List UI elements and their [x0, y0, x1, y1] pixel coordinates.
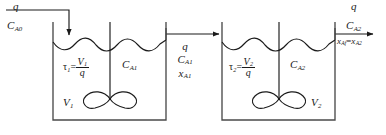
- tank-1-concentration-label: CA1: [122, 59, 137, 71]
- cstr-series-diagram: q CA0 τ1=V1q CA1 V1 q CA1 xA1 τ2=V2q CA2…: [0, 0, 386, 135]
- feed-flow-label: q: [13, 1, 19, 12]
- intermediate-concentration-subscript: A1: [185, 58, 193, 65]
- tank-1-tau-fraction: V1q: [76, 57, 89, 79]
- product-concentration-label: CA2: [346, 20, 361, 32]
- intermediate-conversion-label: xA1: [168, 67, 202, 81]
- feed-concentration-label: CA0: [7, 20, 22, 32]
- product-conversion-right-subscript: A2: [356, 40, 362, 46]
- product-concentration-subscript: A2: [354, 25, 362, 32]
- product-conversion-right-symbol: x: [351, 36, 355, 46]
- tank-1-tau-numerator-symbol: V: [78, 56, 84, 67]
- feed-concentration-symbol: C: [7, 19, 14, 31]
- intermediate-flow-label: q: [168, 40, 202, 53]
- tank-1-tau-numerator-subscript: 1: [84, 60, 87, 67]
- tank-1-concentration-subscript: A1: [130, 64, 138, 71]
- intermediate-concentration-symbol: C: [177, 53, 184, 65]
- tank-2-tau-numerator-symbol: V: [244, 56, 250, 67]
- tank-1-volume-symbol: V: [63, 96, 70, 108]
- tank-1-residence-time-label: τ1=V1q: [63, 57, 89, 79]
- intermediate-pipe: [166, 28, 219, 40]
- intermediate-conversion-subscript: A1: [184, 72, 192, 79]
- tank-2-tau-denominator: q: [242, 68, 255, 79]
- intermediate-conversion-symbol: x: [179, 67, 184, 79]
- tank-2-concentration-subscript: A2: [298, 64, 306, 71]
- tank-2-residence-time-label: τ2=V2q: [229, 57, 255, 79]
- tank-2-concentration-label: CA2: [290, 59, 305, 71]
- intermediate-stream-labels: q CA1 xA1: [168, 40, 202, 80]
- tank-1-volume-subscript: 1: [70, 102, 73, 109]
- tank-1-volume-label: V1: [63, 97, 73, 109]
- intermediate-concentration-label: CA1: [168, 53, 202, 67]
- product-concentration-symbol: C: [346, 19, 353, 31]
- product-conversion-label: xAf=xA2: [337, 37, 362, 47]
- tank-2-volume-symbol: V: [311, 96, 318, 108]
- tank-1-concentration-symbol: C: [122, 58, 129, 70]
- feed-concentration-subscript: A0: [15, 25, 23, 32]
- tank-2-volume-subscript: 2: [318, 102, 321, 109]
- tank-2-concentration-symbol: C: [290, 58, 297, 70]
- tank-2-tau-fraction: V2q: [242, 57, 255, 79]
- tank-2-tau-numerator-subscript: 2: [250, 60, 253, 67]
- tank-2-volume-label: V2: [311, 97, 321, 109]
- tank-1-tau-denominator: q: [76, 68, 89, 79]
- product-flow-label: q: [351, 1, 357, 12]
